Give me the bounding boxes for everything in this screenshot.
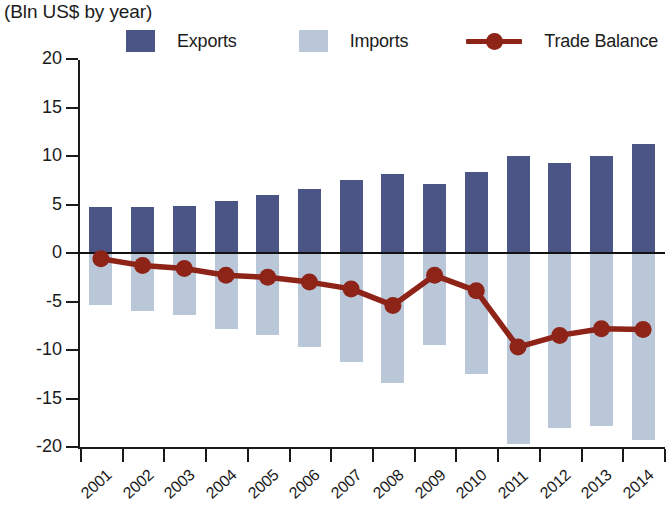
- trade-balance-point: [176, 260, 193, 277]
- trade-balance-point: [551, 327, 568, 344]
- trade-balance-point: [343, 280, 360, 297]
- trade-balance-point: [259, 269, 276, 286]
- trade-balance-point: [384, 297, 401, 314]
- trade-balance-point: [426, 267, 443, 284]
- trade-balance-point: [635, 321, 652, 338]
- trade-balance-point: [593, 320, 610, 337]
- trade-balance-point: [134, 257, 151, 274]
- trade-balance-point: [301, 274, 318, 291]
- trade-balance-point: [468, 282, 485, 299]
- trade-balance-point: [218, 267, 235, 284]
- trade-balance-line-layer: [0, 0, 671, 512]
- trade-balance-chart: (Bln US$ by year) ExportsImportsTrade Ba…: [0, 0, 671, 512]
- trade-balance-point: [92, 250, 109, 267]
- trade-balance-point: [510, 339, 527, 356]
